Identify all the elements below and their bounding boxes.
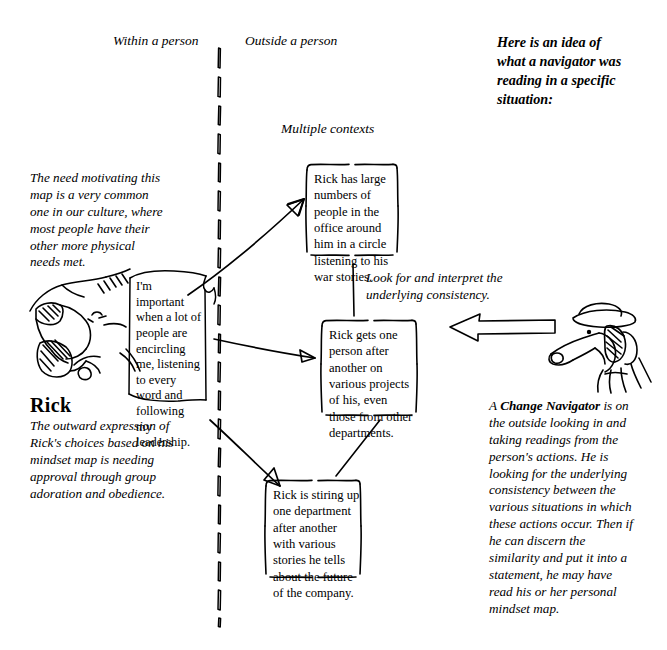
label-outside-a-person: Outside a person (245, 33, 337, 50)
context-box-projects-text: Rick gets one person after another on va… (329, 327, 415, 442)
note-outward-expression: The outward expression of Rick's choices… (30, 418, 196, 502)
intro-statement: Here is an idea of what a navigator was … (497, 33, 629, 109)
context-box-projects: Rick gets one person after another on va… (318, 318, 422, 418)
rick-face-sketch-icon (22, 265, 142, 400)
arrow-to-context-box-projects (212, 336, 320, 362)
person-name-label: Rick (30, 394, 72, 417)
note-look-for-consistency: Look for and interpret the underlying co… (366, 270, 514, 304)
note-change-navigator-prefix: A (489, 398, 500, 413)
navigator-dog-sketch-icon (545, 302, 657, 394)
label-multiple-contexts: Multiple contexts (281, 121, 374, 138)
context-box-departments: Rick is stiring up one department after … (262, 478, 366, 580)
context-box-war-stories-text: Rick has large numbers of people in the … (314, 171, 396, 286)
note-change-navigator-rest: is on the outside looking in and taking … (489, 398, 633, 616)
note-change-navigator: A Change Navigator is on the outside loo… (489, 398, 639, 618)
note-change-navigator-term: Change Navigator (500, 398, 600, 413)
arrow-to-context-box-war-stories (186, 193, 311, 298)
left-arrow-icon (447, 312, 557, 346)
context-box-war-stories: Rick has large numbers of people in the … (303, 162, 403, 258)
note-need-motivating: The need motivating this map is a very c… (30, 170, 163, 271)
label-within-a-person: Within a person (113, 33, 199, 50)
context-box-departments-text: Rick is stiring up one department after … (273, 487, 361, 602)
diagram-canvas: Within a person Outside a person Multipl… (0, 0, 667, 650)
